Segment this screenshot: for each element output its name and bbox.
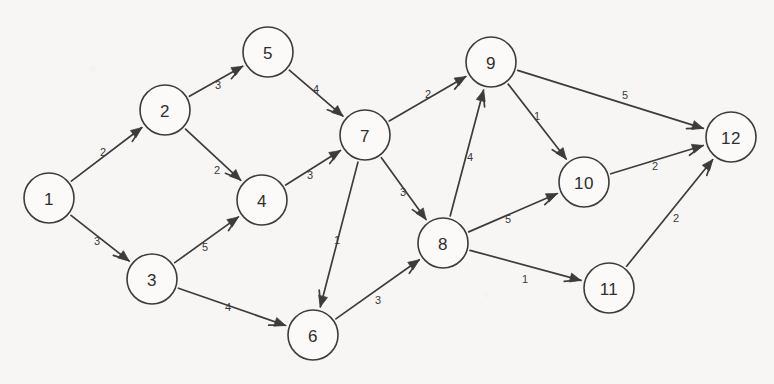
edge-weight-5-7: 4: [313, 83, 319, 95]
graph-canvas: 123456789101112 2332544323134515122: [0, 0, 774, 384]
edge-weight-3-6: 4: [225, 301, 231, 313]
node-label: 6: [308, 327, 318, 346]
edge-weight-7-6: 1: [334, 234, 340, 246]
edge-weight-8-10: 5: [505, 213, 511, 225]
node-11[interactable]: 11: [584, 263, 634, 313]
node-4[interactable]: 4: [237, 175, 287, 225]
node-label: 3: [147, 271, 157, 290]
edge-weight-3-4: 5: [202, 241, 208, 253]
node-10[interactable]: 10: [559, 157, 609, 207]
edge-weight-9-10: 1: [534, 110, 540, 122]
graph-svg: 123456789101112 2332544323134515122: [0, 0, 774, 384]
node-label: 2: [160, 102, 170, 121]
node-label: 4: [257, 192, 267, 211]
arrow-barb: [686, 128, 701, 129]
edge-weight-6-8: 3: [375, 294, 381, 306]
canvas-background: [0, 0, 774, 384]
node-label: 9: [486, 54, 496, 73]
node-1[interactable]: 1: [24, 173, 74, 223]
node-12[interactable]: 12: [706, 112, 756, 162]
edge-weight-8-11: 1: [522, 273, 528, 285]
node-label: 10: [574, 174, 594, 193]
node-label: 1: [44, 190, 54, 209]
node-6[interactable]: 6: [288, 310, 338, 360]
edge-weight-1-3: 3: [94, 235, 100, 247]
node-label: 11: [600, 280, 619, 299]
edge-weight-9-12: 5: [622, 89, 628, 101]
node-label: 12: [721, 129, 741, 148]
node-2[interactable]: 2: [140, 85, 190, 135]
node-label: 5: [263, 44, 273, 63]
node-7[interactable]: 7: [340, 110, 390, 160]
node-9[interactable]: 9: [466, 37, 516, 87]
node-label: 7: [360, 127, 370, 146]
edge-weight-7-8: 3: [400, 186, 406, 198]
edge-weight-8-9: 4: [467, 151, 473, 163]
edge-weight-1-2: 2: [100, 146, 106, 158]
node-3[interactable]: 3: [127, 254, 177, 304]
node-5[interactable]: 5: [243, 27, 293, 77]
node-label: 8: [438, 235, 448, 254]
edge-weight-4-7: 3: [307, 169, 313, 181]
edge-weight-2-5: 3: [215, 79, 221, 91]
edge-weight-7-9: 2: [425, 88, 431, 100]
edge-weight-2-4: 2: [214, 164, 220, 176]
edge-weight-11-12: 2: [673, 212, 679, 224]
node-8[interactable]: 8: [418, 218, 468, 268]
edge-weight-10-12: 2: [652, 160, 658, 172]
